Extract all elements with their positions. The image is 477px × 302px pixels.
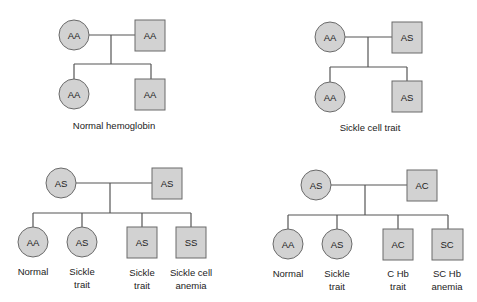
child-phenotype-label: Sickle xyxy=(69,266,94,277)
child-phenotype-label: anemia xyxy=(431,281,463,292)
genotype-label: AS xyxy=(310,180,323,191)
child-phenotype-label: Sickle xyxy=(129,267,154,278)
child-phenotype-label: anemia xyxy=(175,280,207,291)
genotype-label: AC xyxy=(391,239,404,250)
genotype-label: AS xyxy=(136,237,149,248)
genotype-label: AS xyxy=(401,92,414,103)
genotype-label: AS xyxy=(76,237,89,248)
child-phenotype-label: trait xyxy=(329,281,345,292)
panel-sickle-cell-trait: AA AS AA AS Sickle cell trait xyxy=(315,22,422,133)
child-phenotype-label: Normal xyxy=(273,268,304,279)
child-phenotype-label: C Hb xyxy=(387,268,409,279)
genotype-label: AS xyxy=(161,178,174,189)
genotype-label: AA xyxy=(68,89,81,100)
genotype-label: AS xyxy=(331,239,344,250)
child-phenotype-label: trait xyxy=(74,279,90,290)
genotype-label: SS xyxy=(185,237,198,248)
panel-caption: Sickle cell trait xyxy=(340,122,401,133)
genotype-label: AA xyxy=(324,92,337,103)
child-phenotype-label: Normal xyxy=(18,266,49,277)
child-phenotype-label: Sickle xyxy=(324,268,349,279)
child-phenotype-label: SC Hb xyxy=(433,268,461,279)
genotype-label: AA xyxy=(27,237,40,248)
genotype-label: SC xyxy=(440,239,453,250)
genotype-label: AS xyxy=(401,32,414,43)
pedigree-diagram: AA AA AA AA Normal hemoglobin AA AS AA A… xyxy=(0,0,477,302)
genotype-label: AA xyxy=(68,30,81,41)
genotype-label: AC xyxy=(415,180,428,191)
panel-as-x-ac: AS AC AA Normal AS Sickle trait AC C Hb … xyxy=(273,170,464,292)
genotype-label: AA xyxy=(144,89,157,100)
child-phenotype-label: Sickle cell xyxy=(170,267,212,278)
child-phenotype-label: trait xyxy=(134,280,150,291)
panel-as-x-as: AS AS AA Normal AS Sickle trait AS Sickl… xyxy=(18,168,212,291)
genotype-label: AS xyxy=(55,178,68,189)
panel-caption: Normal hemoglobin xyxy=(73,120,155,131)
genotype-label: AA xyxy=(144,30,157,41)
genotype-label: AA xyxy=(324,32,337,43)
child-phenotype-label: trait xyxy=(390,281,406,292)
genotype-label: AA xyxy=(282,239,295,250)
panel-normal-hemoglobin: AA AA AA AA Normal hemoglobin xyxy=(59,20,165,131)
